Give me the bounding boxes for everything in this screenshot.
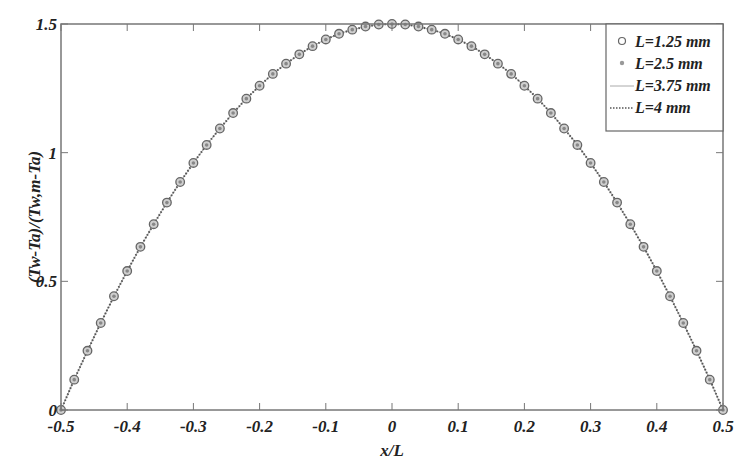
x-tick-label: 0 bbox=[388, 417, 397, 436]
dot-marker bbox=[112, 294, 116, 298]
dot-marker bbox=[218, 127, 222, 131]
dot-marker bbox=[496, 62, 500, 66]
dot-marker bbox=[311, 44, 315, 48]
dot-marker bbox=[139, 245, 143, 249]
dot-marker bbox=[629, 222, 633, 226]
x-axis-label: x/L bbox=[379, 441, 404, 460]
y-tick-label: 1 bbox=[49, 144, 58, 163]
dot-marker bbox=[681, 321, 685, 325]
x-tick-label: 0.2 bbox=[514, 417, 536, 436]
dot-marker bbox=[99, 321, 103, 325]
y-axis-label: (Tw-Ta)/(Tw,m-Ta) bbox=[25, 151, 44, 283]
y-tick-label: 1.5 bbox=[36, 15, 58, 34]
legend-label: L=3.75 mm bbox=[634, 77, 711, 94]
dot-marker bbox=[178, 180, 182, 184]
dot-marker bbox=[86, 349, 90, 353]
dot-marker bbox=[205, 143, 209, 147]
dot-marker bbox=[417, 25, 421, 29]
x-tick-label: -0.4 bbox=[114, 417, 141, 436]
dot-marker bbox=[589, 161, 593, 165]
chart: -0.5-0.4-0.3-0.2-0.100.10.20.30.40.500.5… bbox=[0, 0, 740, 472]
dot-marker bbox=[509, 72, 513, 76]
legend-label: L=2.5 mm bbox=[634, 55, 703, 72]
x-tick-label: 0.4 bbox=[646, 417, 667, 436]
y-tick-label: 0 bbox=[49, 401, 58, 420]
dot-marker bbox=[125, 269, 129, 273]
dot-marker bbox=[695, 349, 699, 353]
dot-marker bbox=[72, 378, 76, 382]
x-tick-label: -0.3 bbox=[180, 417, 207, 436]
legend-label: L=4 mm bbox=[634, 99, 691, 116]
dot-marker bbox=[430, 28, 434, 32]
dot-marker bbox=[324, 38, 328, 42]
x-tick-label: 0.5 bbox=[712, 417, 734, 436]
dot-marker bbox=[549, 111, 553, 115]
dot-marker bbox=[456, 38, 460, 42]
dot-marker bbox=[364, 25, 368, 29]
x-tick-label: -0.2 bbox=[246, 417, 273, 436]
dot-marker bbox=[443, 32, 447, 36]
dot-marker bbox=[642, 245, 646, 249]
dot-marker bbox=[536, 97, 540, 101]
x-tick-label: 0.1 bbox=[448, 417, 469, 436]
dot-marker bbox=[576, 143, 580, 147]
dot-marker bbox=[350, 28, 354, 32]
dot-marker bbox=[708, 378, 712, 382]
dot-marker bbox=[192, 161, 196, 165]
dot-marker bbox=[523, 84, 527, 88]
legend-label: L=1.25 mm bbox=[634, 33, 711, 50]
dot-marker bbox=[231, 111, 235, 115]
dot-marker bbox=[245, 97, 249, 101]
dot-marker bbox=[655, 269, 659, 273]
dot-marker bbox=[258, 84, 262, 88]
dot-marker bbox=[562, 127, 566, 131]
dot-marker bbox=[284, 62, 288, 66]
x-tick-label: -0.1 bbox=[312, 417, 339, 436]
dot-marker bbox=[470, 44, 474, 48]
dot-marker bbox=[668, 294, 672, 298]
dot-marker bbox=[298, 53, 302, 57]
dot-marker bbox=[602, 180, 606, 184]
dot-marker bbox=[483, 53, 487, 57]
legend: L=1.25 mm L=2.5 mm L=3.75 mm L=4 mm bbox=[606, 24, 723, 131]
dot-marker bbox=[165, 201, 169, 205]
dot-marker bbox=[271, 72, 275, 76]
x-tick-label: 0.3 bbox=[580, 417, 602, 436]
dot-marker bbox=[337, 32, 341, 36]
dot-marker bbox=[152, 222, 156, 226]
dot-marker-icon bbox=[620, 61, 624, 65]
dot-marker bbox=[615, 201, 619, 205]
